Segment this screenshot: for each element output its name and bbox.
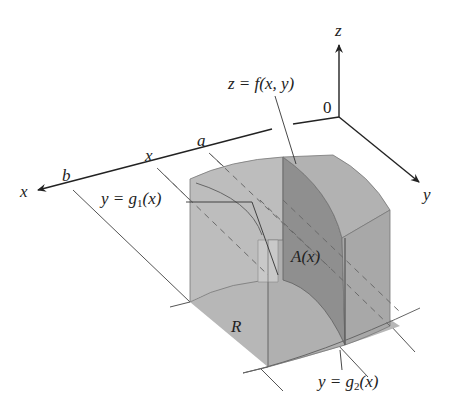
origin-label: 0 bbox=[323, 99, 332, 116]
surface-leader bbox=[275, 96, 296, 164]
region-label: R bbox=[231, 318, 241, 335]
surface-label: z = f(x, y) bbox=[228, 75, 294, 92]
g1-prefix: y = g bbox=[101, 189, 137, 208]
solid bbox=[157, 153, 420, 373]
y-axis-label: y bbox=[423, 186, 431, 203]
g1-suffix: (x) bbox=[143, 189, 162, 208]
base-ext-1 bbox=[260, 368, 283, 391]
g2-leader bbox=[340, 350, 342, 370]
g2-prefix: y = g bbox=[318, 372, 354, 391]
g2-suffix: (x) bbox=[360, 372, 379, 391]
a-label: a bbox=[197, 132, 206, 149]
x-axis-behind bbox=[293, 117, 339, 124]
b-label: b bbox=[62, 167, 71, 184]
g1-label: y = g1(x) bbox=[101, 190, 161, 209]
z-axis-label: z bbox=[335, 22, 342, 39]
area-label: A(x) bbox=[291, 248, 320, 265]
base-ext-3 bbox=[390, 325, 415, 352]
x-tick-label: x bbox=[145, 147, 153, 164]
diagram-figure: z 0 y x z = f(x, y) b x a y = g1(x) A(x)… bbox=[0, 0, 456, 418]
base-tick-left bbox=[170, 302, 190, 307]
x-axis-label: x bbox=[20, 183, 28, 200]
solid-diagram-svg bbox=[0, 0, 456, 418]
g2-label: y = g2(x) bbox=[318, 373, 378, 392]
